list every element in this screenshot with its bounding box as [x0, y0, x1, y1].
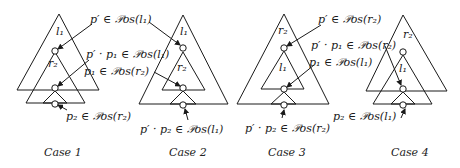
case-1-annotation-p1: p₁ ∈ 𝒫os(r₂) — [84, 66, 149, 78]
case-1-inner-label: r₂ — [48, 58, 58, 70]
case-1-node-p-prime — [52, 48, 58, 54]
case-1-annotation-p2: p₂ ∈ 𝒫os(r₂) — [66, 111, 131, 123]
case-3-caption: Case 3 — [268, 146, 306, 159]
case-2-node-p2 — [180, 102, 186, 108]
case-2-arrow-1 — [149, 22, 180, 45]
diagram-drawing — [0, 0, 460, 168]
case-3-node-p-prime — [281, 45, 287, 51]
case-4-outer-label: r₂ — [403, 29, 413, 41]
case-3-inner-label: l₁ — [279, 62, 287, 74]
case-2-annotation-p-prime-p2: p′ · p₂ ∈ 𝒫os(l₁) — [140, 124, 223, 136]
case-3-annotation-p-prime-p1: p′ · p₁ ∈ 𝒫os(r₂) — [311, 40, 396, 52]
case-3-arrow-3 — [282, 110, 284, 118]
case-4-node-p2 — [400, 102, 406, 108]
case-1-outer-label: l₁ — [56, 26, 64, 38]
case-4-node-p-prime — [400, 49, 406, 55]
case-3-node-p1 — [281, 86, 287, 92]
case-4-arrow-2 — [401, 109, 405, 118]
case-2-node-p1 — [180, 85, 186, 91]
case-1-caption: Case 1 — [44, 146, 82, 159]
case-4-annotation-p2: p₂ ∈ 𝒫os(l₁) — [333, 111, 396, 123]
case-2-arrow-3 — [185, 109, 188, 120]
case-3-annotation-p1: p₁ ∈ 𝒫os(l₁) — [309, 57, 372, 69]
case-2-inner-label: r₂ — [177, 62, 187, 74]
diagram-figure: l₁ r₂ l₁ r₂ r₂ l₁ r₂ l₁ p′ ∈ 𝒫os(l₁) p′ … — [0, 0, 460, 168]
case-2-caption: Case 2 — [169, 146, 207, 159]
case-2-outer-label: l₁ — [180, 26, 188, 38]
case-2-node-p-prime — [180, 45, 186, 51]
case-3-annotation-p-prime: p′ ∈ 𝒫os(r₂) — [318, 14, 381, 26]
case-1-node-p2 — [52, 101, 58, 107]
case-1-annotation-p-prime: p′ ∈ 𝒫os(l₁) — [90, 14, 151, 26]
case-4-caption: Case 4 — [391, 146, 429, 159]
case-4-node-p1 — [400, 86, 406, 92]
case-3-annotation-p-prime-p2: p′ · p₂ ∈ 𝒫os(r₂) — [245, 123, 330, 135]
case-3-outer-label: r₂ — [278, 25, 288, 37]
case-3-node-p2 — [281, 102, 287, 108]
case-1-annotation-p-prime-p1: p′ · p₁ ∈ 𝒫os(l₁) — [86, 49, 169, 61]
case-2-arrow-2 — [154, 72, 180, 86]
case-1-node-p1 — [52, 85, 58, 91]
case-4-inner-label: l₁ — [399, 63, 407, 75]
